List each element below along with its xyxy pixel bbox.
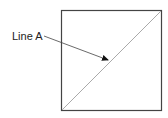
line-a-label: Line A <box>12 30 43 42</box>
diagonal-line-a <box>62 11 161 110</box>
diagram-canvas: Line A <box>0 0 168 118</box>
leader-arrow <box>44 36 108 60</box>
